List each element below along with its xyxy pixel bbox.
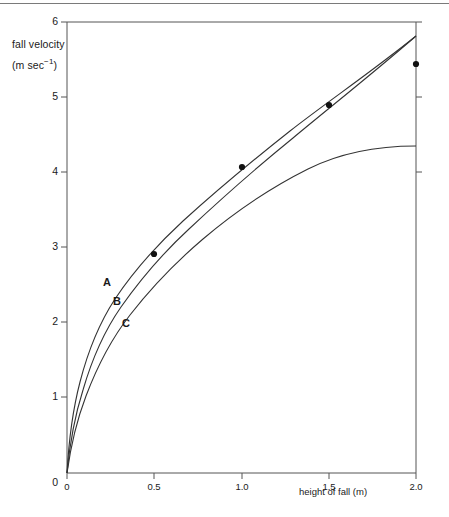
curve-label-a: A: [103, 276, 111, 288]
y-tick-label-6: 6: [38, 15, 58, 27]
y-tick-label-2: 2: [38, 315, 58, 327]
fall-velocity-chart: fall velocity (m sec−1): [0, 0, 449, 517]
y-axis-right-ticks: [416, 22, 422, 172]
x-axis-label: height of fall (m): [299, 486, 367, 497]
marker-2-0: [413, 61, 419, 67]
y-tick-label-1: 1: [38, 390, 58, 402]
y-tick-label-4: 4: [38, 165, 58, 177]
x-tick-label-0: 0: [47, 481, 87, 492]
marker-1-0: [239, 164, 245, 170]
marker-0-5: [151, 251, 157, 257]
x-axis-ticks: [67, 473, 416, 479]
y-tick-label-3: 3: [38, 240, 58, 252]
x-tick-label-2-0: 2.0: [396, 481, 436, 492]
axes: [67, 22, 416, 473]
x-tick-label-0-5: 0.5: [134, 481, 174, 492]
x-tick-label-1-0: 1.0: [222, 481, 262, 492]
plot-area: [0, 0, 449, 517]
curve-a: [67, 36, 416, 473]
curve-label-c: C: [122, 317, 130, 329]
curve-b: [67, 36, 416, 473]
marker-1-5: [326, 102, 332, 108]
y-tick-label-5: 5: [38, 90, 58, 102]
y-axis-ticks: [61, 22, 67, 397]
curve-label-b: B: [113, 295, 121, 307]
